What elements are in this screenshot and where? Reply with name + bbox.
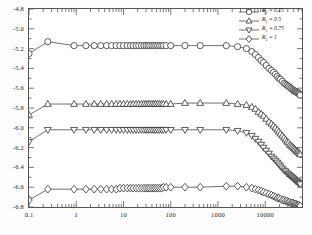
x-tick-label: 0.1 [25,211,34,218]
x-tick-label: 10000 [257,211,274,218]
legend-marker-circle [238,8,260,16]
series-diamond [29,182,302,207]
legend-item[interactable]: R1 = 1 [238,35,304,43]
x-tick-label: 100 [166,211,176,218]
y-tick-label: -5.6 [0,84,24,91]
y-tick-label: -6.8 [0,203,24,210]
legend-marker-triangle-up [238,17,260,25]
legend-marker-triangle-down [238,26,260,34]
y-tick-label: -5.8 [0,104,24,111]
x-tick-label: 1 [75,211,78,218]
y-tick-label: -6.2 [0,144,24,151]
y-tick-label: -6.4 [0,163,24,170]
x-tick-label: 1000 [211,211,225,218]
chart-root: -4.8-5.0-5.2-5.4-5.6-5.8-6.0-6.2-6.4-6.6… [0,0,312,235]
y-tick-label: -5.2 [0,45,24,52]
x-tick-label: 10 [120,211,127,218]
legend-marker-diamond [238,35,260,43]
y-tick-label: -5.0 [0,25,24,32]
y-tick-label: -6.0 [0,124,24,131]
y-tick-label: -4.8 [0,5,24,12]
series-triangle-down [29,127,302,187]
series-circle [29,39,302,99]
y-tick-label: -5.4 [0,64,24,71]
legend-label: R1 = 1 [260,33,277,44]
y-tick-label: -6.6 [0,183,24,190]
chart-legend: R1 = 0.25R1 = 0.5R1 = 0.75R1 = 1 [238,8,304,44]
